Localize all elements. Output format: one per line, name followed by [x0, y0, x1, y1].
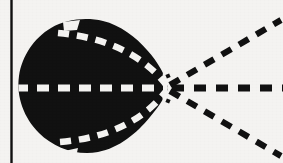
lobe-diagram-svg — [0, 0, 283, 163]
figure-canvas — [0, 0, 283, 163]
